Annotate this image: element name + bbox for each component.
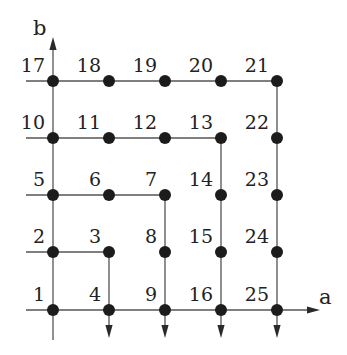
node-label-16: 16 [189, 283, 213, 305]
node-label-4: 4 [89, 283, 101, 305]
node-18 [103, 75, 115, 87]
node-label-14: 14 [189, 168, 213, 190]
node-label-25: 25 [245, 283, 269, 305]
shell-2-4-line-arrow-icon [105, 325, 112, 338]
shell-10-16-line-arrow-icon [217, 325, 224, 338]
node-label-23: 23 [245, 168, 269, 190]
node-11 [103, 132, 115, 144]
node-21 [271, 75, 283, 87]
node-label-22: 22 [245, 111, 269, 133]
node-label-1: 1 [33, 283, 45, 305]
node-label-9: 9 [145, 283, 157, 305]
node-10 [47, 132, 59, 144]
node-label-8: 8 [145, 225, 157, 247]
shell-5-9-line-arrow-icon [161, 325, 168, 338]
node-20 [215, 75, 227, 87]
node-7 [159, 189, 171, 201]
node-label-19: 19 [133, 54, 157, 76]
node-label-12: 12 [133, 111, 157, 133]
node-15 [215, 246, 227, 258]
node-3 [103, 246, 115, 258]
shell-17-25-line-arrow-icon [273, 325, 280, 338]
node-19 [159, 75, 171, 87]
grid-spiral-diagram: 1234567891011121314151617181920212223242… [0, 0, 347, 355]
b-axis-line-arrow-icon [49, 37, 56, 50]
node-label-18: 18 [77, 54, 101, 76]
node-14 [215, 189, 227, 201]
node-5 [47, 189, 59, 201]
node-9 [159, 304, 171, 316]
b-axis-label: b [33, 16, 46, 40]
node-label-10: 10 [21, 111, 45, 133]
node-label-21: 21 [245, 54, 269, 76]
node-label-13: 13 [189, 111, 213, 133]
node-label-5: 5 [33, 168, 45, 190]
node-label-7: 7 [145, 168, 157, 190]
node-label-2: 2 [33, 225, 45, 247]
node-label-15: 15 [189, 225, 213, 247]
node-label-3: 3 [89, 225, 101, 247]
node-4 [103, 304, 115, 316]
node-label-6: 6 [89, 168, 101, 190]
node-17 [47, 75, 59, 87]
node-labels: 1234567891011121314151617181920212223242… [21, 54, 269, 305]
node-25 [271, 304, 283, 316]
node-label-11: 11 [77, 111, 101, 133]
node-label-24: 24 [245, 225, 269, 247]
node-8 [159, 246, 171, 258]
node-12 [159, 132, 171, 144]
node-6 [103, 189, 115, 201]
node-24 [271, 246, 283, 258]
node-16 [215, 304, 227, 316]
node-23 [271, 189, 283, 201]
node-label-20: 20 [189, 54, 213, 76]
node-13 [215, 132, 227, 144]
node-1 [47, 304, 59, 316]
node-label-17: 17 [21, 54, 45, 76]
node-22 [271, 132, 283, 144]
a-axis-label: a [319, 285, 332, 309]
node-2 [47, 246, 59, 258]
